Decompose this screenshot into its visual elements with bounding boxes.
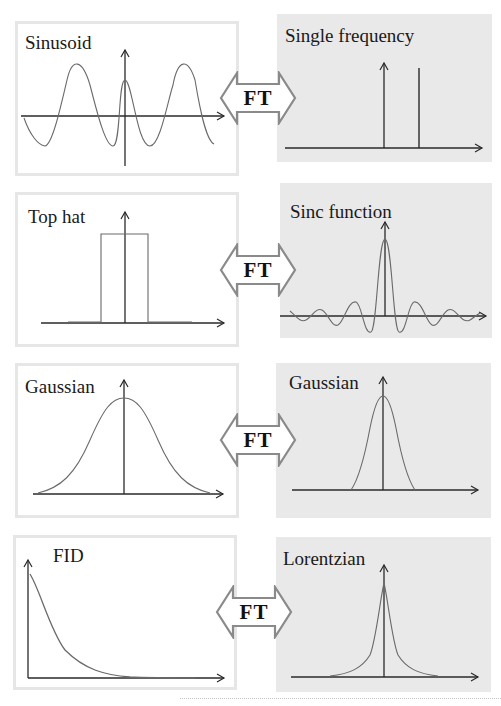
fid-plot — [28, 560, 224, 678]
ft-arrow-row-3: FT — [219, 413, 297, 467]
single-frequency-plot — [285, 63, 482, 148]
gaussian-freq-plot — [292, 377, 478, 490]
sinc-function-plot — [280, 222, 486, 332]
ft-arrow-row-1: FT — [219, 71, 297, 125]
scan-artifact-line — [180, 698, 501, 700]
top-hat-plot — [41, 212, 224, 323]
lorentzian-plot — [291, 565, 478, 677]
gaussian-time-plot — [33, 380, 223, 494]
ft-label-row-2: FT — [219, 243, 297, 297]
ft-label-row-1: FT — [219, 71, 297, 125]
ft-arrow-row-2: FT — [219, 243, 297, 297]
ft-label-row-4: FT — [215, 585, 293, 639]
sinusoid-plot — [21, 50, 224, 166]
ft-label-row-3: FT — [219, 413, 297, 467]
ft-arrow-row-4: FT — [215, 585, 293, 639]
